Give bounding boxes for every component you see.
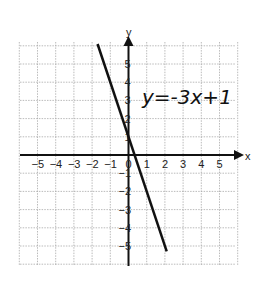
x-axis-label: x [245, 150, 251, 162]
svg-text:4: 4 [125, 76, 131, 88]
svg-text:−1: −1 [104, 158, 117, 170]
svg-text:4: 4 [198, 158, 204, 170]
equation-annotation: y=-3x+1 [141, 85, 232, 109]
svg-text:5: 5 [217, 158, 223, 170]
svg-text:−2: −2 [86, 158, 99, 170]
x-axis-arrow-icon [234, 150, 244, 160]
svg-text:−5: −5 [32, 158, 45, 170]
svg-text:5: 5 [125, 58, 131, 70]
svg-text:−5: −5 [119, 240, 132, 252]
svg-text:3: 3 [125, 94, 131, 106]
svg-text:2: 2 [125, 113, 131, 125]
line-series [98, 44, 167, 251]
svg-text:−3: −3 [68, 158, 81, 170]
svg-text:3: 3 [180, 158, 186, 170]
svg-text:−4: −4 [50, 158, 63, 170]
svg-text:−1: −1 [119, 167, 132, 179]
svg-text:−2: −2 [119, 185, 132, 197]
coordinate-plane: x y −5−4−3−2−1012345 54321−1−2−3−4−5 y=-… [0, 0, 261, 287]
svg-text:−4: −4 [119, 222, 132, 234]
svg-text:1: 1 [144, 158, 150, 170]
y-axis-label: y [126, 26, 132, 38]
svg-text:2: 2 [162, 158, 168, 170]
svg-text:−3: −3 [119, 204, 132, 216]
